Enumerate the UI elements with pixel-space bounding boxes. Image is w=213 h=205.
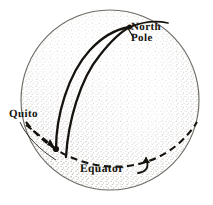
label-north-pole-line2: Pole — [131, 33, 161, 44]
label-equator: Equator — [80, 164, 124, 176]
label-north-pole: North Pole — [131, 22, 161, 44]
label-quito: Quito — [9, 109, 38, 120]
earth-sphere-figure: North Pole Quito Equator — [0, 0, 213, 205]
